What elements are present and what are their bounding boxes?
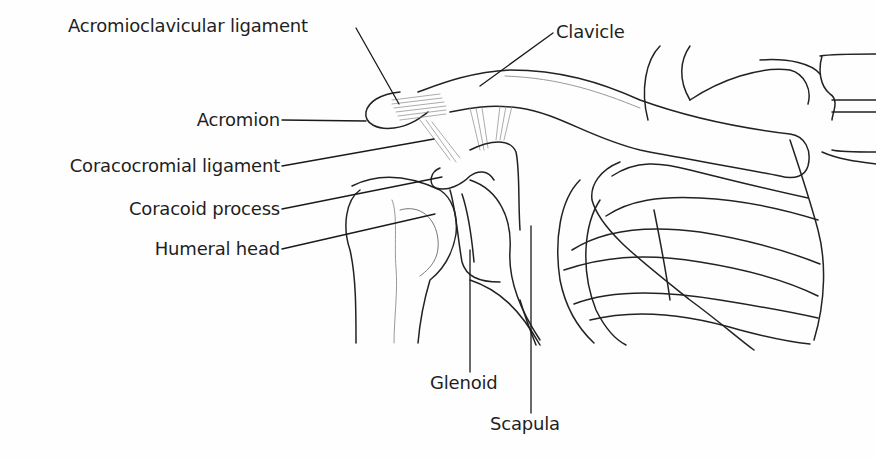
scapula-outline xyxy=(470,280,540,345)
glenoid-outline xyxy=(450,190,500,282)
label-coracoid-process: Coracoid process xyxy=(60,199,280,219)
acromion-bone xyxy=(366,92,428,128)
sternum xyxy=(820,54,876,164)
label-acromion: Acromion xyxy=(176,110,280,130)
clavicle-bone xyxy=(418,70,809,178)
humerus-bone xyxy=(346,190,360,343)
shoulder-anatomy-diagram: Acromioclavicular ligament Clavicle Acro… xyxy=(0,0,876,458)
label-scapula: Scapula xyxy=(490,414,560,434)
label-clavicle: Clavicle xyxy=(556,22,625,42)
label-humeral-head: Humeral head xyxy=(100,239,280,259)
label-glenoid: Glenoid xyxy=(430,373,497,393)
label-coracocromial-ligament: Coracocromial ligament xyxy=(20,156,280,176)
leader-lines xyxy=(282,28,553,413)
coracoid-process-bone xyxy=(431,168,494,189)
label-acromioclavicular-ligament: Acromioclavicular ligament xyxy=(68,16,308,36)
ribcage xyxy=(558,46,824,350)
